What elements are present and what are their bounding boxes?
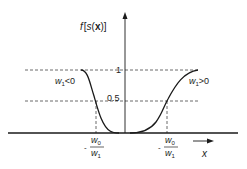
y-axis-arrowhead-icon — [123, 12, 128, 19]
tick-label-half: 0.5 — [107, 93, 120, 103]
x-arrowhead-icon — [207, 139, 214, 144]
svg-text:-: - — [84, 143, 87, 152]
svg-text:w0: w0 — [165, 135, 176, 146]
tick-label-one: 1 — [116, 65, 121, 75]
threshold-label-left: - w0 w1 — [84, 135, 104, 159]
x-axis-label: x — [201, 148, 208, 159]
y-axis-label: f[s(x)] — [80, 21, 107, 32]
svg-text:w1: w1 — [91, 148, 102, 159]
svg-text:-: - — [158, 143, 161, 152]
svg-text:w1: w1 — [165, 148, 176, 159]
threshold-label-right: - w0 w1 — [158, 135, 178, 159]
label-w1-negative: w1<0 — [55, 76, 75, 87]
label-w1-positive: w1>0 — [189, 76, 209, 87]
sigmoid-diagram: f[s(x)] 1 0.5 w1<0 w1>0 - w0 w1 - w0 w1 … — [0, 0, 247, 169]
curve-w1-positive — [130, 70, 198, 133]
svg-text:w0: w0 — [91, 135, 102, 146]
